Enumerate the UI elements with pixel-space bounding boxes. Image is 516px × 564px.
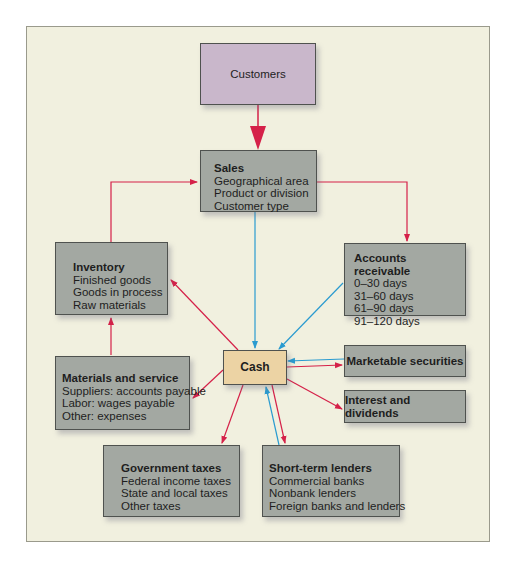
node-interest-dividends: Interest and dividends [344, 390, 466, 423]
node-inventory-title: Inventory [73, 261, 167, 274]
node-government-taxes: Government taxes Federal income taxes St… [103, 445, 240, 517]
node-lenders-line: Nonbank lenders [269, 487, 399, 500]
node-marketable-securities: Marketable securities [344, 345, 466, 377]
node-cash-label: Cash [240, 361, 269, 374]
node-ar-line: 91–120 days [354, 315, 465, 328]
node-ar-line: 31–60 days [354, 290, 465, 303]
node-lenders-line: Foreign banks and lenders [269, 500, 399, 513]
node-ar-line: 61–90 days [354, 302, 465, 315]
node-inventory-line: Finished goods [73, 274, 167, 287]
node-securities-label: Marketable securities [347, 355, 464, 368]
node-customers-label: Customers [230, 68, 286, 81]
node-taxes-line: Other taxes [121, 500, 239, 513]
node-materials-service: Materials and service Suppliers: account… [55, 356, 190, 430]
node-sales-line: Geographical area [214, 175, 316, 188]
node-taxes-line: Federal income taxes [121, 475, 239, 488]
node-short-term-lenders: Short-term lenders Commercial banks Nonb… [262, 445, 400, 517]
node-sales-line: Customer type [214, 200, 316, 213]
node-cash: Cash [223, 350, 287, 385]
node-inventory-line: Goods in process [73, 286, 167, 299]
node-taxes-line: State and local taxes [121, 487, 239, 500]
node-interest-label: Interest and dividends [345, 394, 465, 419]
node-materials-title: Materials and service [62, 372, 189, 385]
node-lenders-line: Commercial banks [269, 475, 399, 488]
node-sales: Sales Geographical area Product or divis… [200, 150, 317, 212]
node-accounts-receivable: Accounts receivable 0–30 days 31–60 days… [344, 243, 466, 316]
node-ar-title: Accounts receivable [354, 252, 465, 277]
node-materials-line: Other: expenses [62, 410, 189, 423]
node-taxes-title: Government taxes [121, 462, 239, 475]
node-materials-line: Suppliers: accounts payable [62, 385, 189, 398]
node-sales-line: Product or division [214, 187, 316, 200]
node-materials-line: Labor: wages payable [62, 397, 189, 410]
node-ar-line: 0–30 days [354, 277, 465, 290]
node-customers: Customers [200, 43, 316, 105]
node-inventory-line: Raw materials [73, 299, 167, 312]
node-inventory: Inventory Finished goods Goods in proces… [55, 242, 168, 315]
node-sales-title: Sales [214, 162, 316, 175]
node-lenders-title: Short-term lenders [269, 462, 399, 475]
